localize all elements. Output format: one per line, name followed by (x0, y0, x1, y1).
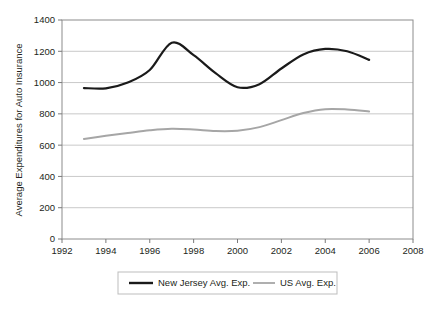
y-axis-tick-label: 1400 (34, 14, 55, 25)
x-axis-tick-label: 1998 (183, 245, 204, 256)
x-axis-tick-label: 2000 (227, 245, 248, 256)
legend-label: New Jersey Avg. Exp. (158, 277, 250, 288)
y-axis-tick-label: 1200 (34, 46, 55, 57)
x-axis-tick-label: 1994 (95, 245, 116, 256)
x-axis-tick-label: 2008 (402, 245, 423, 256)
line-chart: Average Expenditures for Auto Insurance … (0, 0, 433, 310)
chart-container: Average Expenditures for Auto Insurance … (0, 0, 433, 310)
legend-label: US Avg. Exp. (280, 277, 336, 288)
y-axis-tick-label: 400 (39, 171, 55, 182)
x-axis-tick-label: 2004 (315, 245, 336, 256)
y-axis-tick-label: 1000 (34, 77, 55, 88)
x-axis-tick-label: 2006 (359, 245, 380, 256)
y-axis-tick-label: 200 (39, 202, 55, 213)
chart-legend: New Jersey Avg. Exp.US Avg. Exp. (118, 272, 337, 294)
chart-background (0, 0, 433, 310)
y-axis-title: Average Expenditures for Auto Insurance (13, 43, 24, 216)
x-axis-tick-label: 1996 (139, 245, 160, 256)
x-axis-tick-label: 2002 (271, 245, 292, 256)
y-axis-tick-label: 600 (39, 140, 55, 151)
y-axis-tick-label: 800 (39, 108, 55, 119)
y-axis-tick-label: 0 (50, 233, 55, 244)
x-axis-tick-label: 1992 (51, 245, 72, 256)
